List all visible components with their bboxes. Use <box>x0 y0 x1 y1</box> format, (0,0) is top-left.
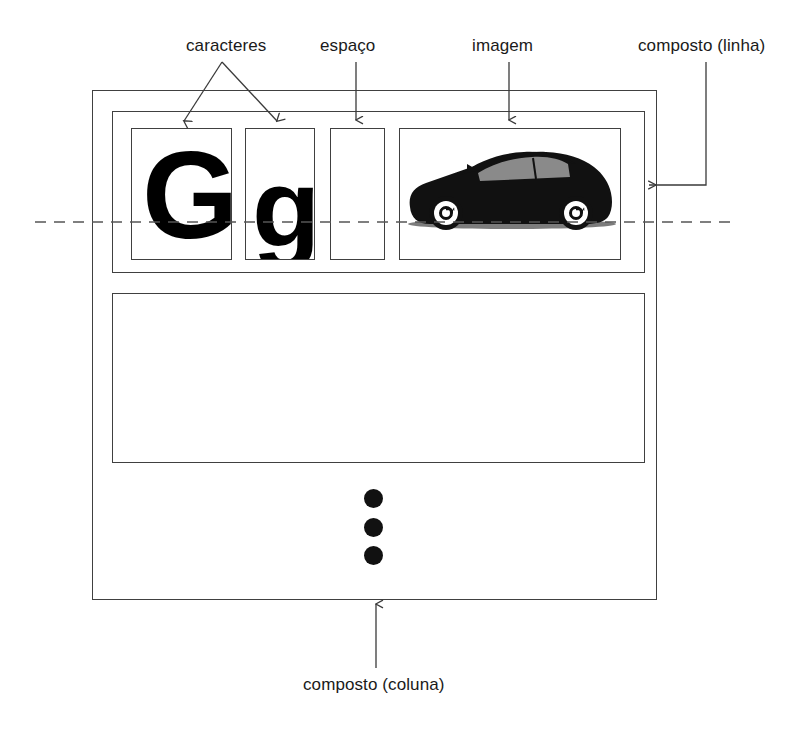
glyph-lowercase-g: g <box>252 153 315 260</box>
ellipsis-dot-2 <box>364 518 383 537</box>
label-caracteres: caracteres <box>186 36 266 56</box>
ellipsis-dot-3 <box>364 546 383 565</box>
car-silhouette-icon <box>400 129 621 260</box>
glyph-uppercase-g: G <box>142 133 232 257</box>
diagram-canvas: caracteres espaço imagem composto (linha… <box>0 0 808 736</box>
label-imagem: imagem <box>472 36 533 56</box>
cell-character-lowercase: g <box>245 128 315 260</box>
cell-image <box>399 128 621 260</box>
label-espaco: espaço <box>320 36 375 56</box>
label-composto-coluna: composto (coluna) <box>303 675 445 695</box>
leader-composto-linha <box>649 62 706 185</box>
ellipsis-dot-1 <box>364 489 383 508</box>
cell-character-uppercase: G <box>131 128 232 260</box>
row-composite-box-2 <box>112 293 645 463</box>
label-composto-linha: composto (linha) <box>638 36 765 56</box>
cell-space <box>330 128 385 260</box>
